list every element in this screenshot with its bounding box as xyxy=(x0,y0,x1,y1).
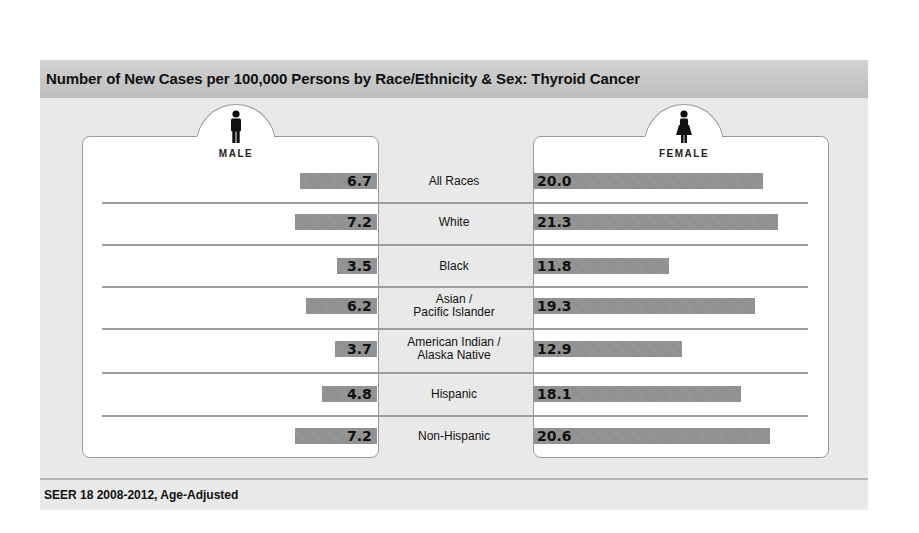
row-separator xyxy=(530,286,808,288)
female-figure-icon xyxy=(674,110,694,144)
male-value: 7.2 xyxy=(347,214,372,230)
category-label: Hispanic xyxy=(389,388,519,401)
male-value: 6.2 xyxy=(347,298,372,314)
row-separator xyxy=(102,286,530,288)
row-separator xyxy=(530,372,808,374)
row-separator xyxy=(102,202,530,204)
female-value: 18.1 xyxy=(537,386,572,402)
row-separator xyxy=(530,328,808,330)
female-value: 20.6 xyxy=(537,428,572,444)
category-label: Asian /Pacific Islander xyxy=(389,293,519,319)
row-separator xyxy=(530,244,808,246)
male-value: 3.5 xyxy=(347,258,372,274)
chart-frame: Number of New Cases per 100,000 Persons … xyxy=(40,60,868,510)
female-value: 21.3 xyxy=(537,214,572,230)
category-label: All Races xyxy=(389,175,519,188)
male-value: 7.2 xyxy=(347,428,372,444)
source-note: SEER 18 2008-2012, Age-Adjusted xyxy=(44,488,238,502)
male-figure-icon xyxy=(226,110,246,144)
row-separator xyxy=(530,202,808,204)
category-label: Non-Hispanic xyxy=(389,430,519,443)
row-separator xyxy=(102,415,530,417)
female-label: FEMALE xyxy=(634,148,734,159)
category-label: Black xyxy=(389,260,519,273)
row-separator xyxy=(102,328,530,330)
male-value: 3.7 xyxy=(347,341,372,357)
female-value: 19.3 xyxy=(537,298,572,314)
category-label: White xyxy=(389,216,519,229)
row-separator xyxy=(102,372,530,374)
row-separator xyxy=(102,244,530,246)
male-value: 4.8 xyxy=(347,386,372,402)
female-value: 20.0 xyxy=(537,173,572,189)
footer-divider xyxy=(40,478,868,480)
title-bar: Number of New Cases per 100,000 Persons … xyxy=(40,60,868,98)
category-label: American Indian /Alaska Native xyxy=(389,336,519,362)
female-value: 11.8 xyxy=(537,258,572,274)
female-value: 12.9 xyxy=(537,341,572,357)
male-label: MALE xyxy=(186,148,286,159)
chart-title: Number of New Cases per 100,000 Persons … xyxy=(46,70,640,87)
male-value: 6.7 xyxy=(347,173,372,189)
row-separator xyxy=(530,415,808,417)
